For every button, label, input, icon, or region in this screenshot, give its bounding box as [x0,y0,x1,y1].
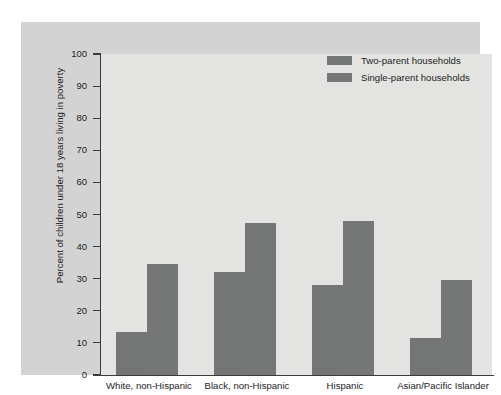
y-axis-title-text: Percent of children under 18 years livin… [54,26,65,326]
y-axis-tick [93,246,100,247]
legend-item-label: Two-parent households [361,56,461,66]
y-axis-tick [93,310,100,311]
x-axis-category-label: Black, non-Hispanic [198,380,296,391]
bar-chart-figure: 1009080706050403020100 Percent of childr… [0,0,501,395]
bar [343,221,374,375]
legend-item: Single-parent households [327,69,470,86]
y-axis-tick [93,182,100,183]
y-axis-tick-label: 100 [61,49,87,59]
bar [214,272,245,375]
x-axis-category-label: Asian/Pacific Islander [394,380,492,391]
bar [410,338,441,375]
bar [441,280,472,375]
legend-item-label: Single-parent households [361,73,470,83]
y-axis-tick-label: 10 [61,338,87,348]
x-axis-category-label: Hispanic [296,380,394,391]
y-axis-tick-label: 80 [61,113,87,123]
x-axis-category-label: White, non-Hispanic [100,380,198,391]
legend-color-swatch [327,73,352,82]
y-axis-tick [93,53,100,54]
y-axis-tick-label: 90 [61,81,87,91]
y-axis-tick-label: 20 [61,306,87,316]
y-axis-line [100,53,101,376]
y-axis-tick [93,214,100,215]
y-axis-tick-label: 0 [61,370,87,380]
y-axis-tick-label: 70 [61,145,87,155]
chart-panel: 1009080706050403020100 Percent of childr… [21,22,480,375]
y-axis-tick-label: 30 [61,274,87,284]
y-axis-tick [93,150,100,151]
y-axis-tick [93,342,100,343]
y-axis-tick [93,118,100,119]
y-axis-tick-label: 60 [61,177,87,187]
legend-item: Two-parent households [327,52,470,69]
bar [116,332,147,375]
x-axis-line [100,375,494,376]
y-axis-tick-label: 50 [61,210,87,220]
legend-color-swatch [327,56,352,65]
bar [245,223,276,375]
y-axis-tick [93,374,100,375]
y-axis-tick [93,86,100,87]
chart-legend: Two-parent householdsSingle-parent house… [327,52,470,86]
bar [312,285,343,375]
y-axis-tick-label: 40 [61,242,87,252]
y-axis-tick [93,278,100,279]
bar [147,264,178,375]
